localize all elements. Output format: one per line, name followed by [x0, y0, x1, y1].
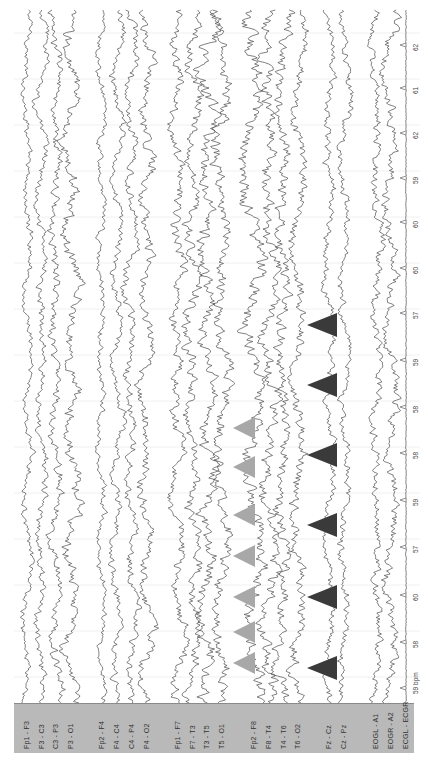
- r-peak-tick: [400, 451, 406, 455]
- heart-rate-value: 58: [412, 641, 419, 648]
- dark-triangle-marker-icon: [307, 513, 337, 537]
- channel-label: Fp1 - F7: [174, 721, 181, 749]
- channel-label: F7 - T3: [189, 725, 196, 749]
- r-peak-tick: [400, 405, 406, 409]
- dark-triangle-marker-icon: [307, 585, 337, 609]
- eeg-trace-c4-p4: [120, 10, 141, 703]
- gray-triangle-marker-icon: [233, 621, 255, 643]
- r-peak-tick: [400, 176, 406, 180]
- heart-rate-value: 59: [412, 499, 419, 506]
- channel-label: T4 - T6: [280, 725, 287, 749]
- r-peak-tick: [400, 686, 406, 690]
- heart-rate-value: 59: [412, 359, 419, 366]
- r-peak-tick: [400, 220, 406, 224]
- channel-label: EOGL - A1: [372, 714, 379, 749]
- eeg-trace-f3-c3: [32, 10, 50, 703]
- gray-triangle-marker-icon: [233, 545, 255, 567]
- eeg-trace-t4-t6: [271, 10, 295, 703]
- channel-label: C3 - P3: [52, 724, 59, 749]
- heart-rate-value: 60: [412, 267, 419, 274]
- channel-label: Cz - Pz: [340, 725, 347, 749]
- eeg-trace-f4-c4: [109, 10, 127, 703]
- r-peak-tick: [400, 266, 406, 270]
- heart-rate-value: 59 bpm: [412, 672, 419, 694]
- eeg-trace-f8-t4: [256, 10, 283, 703]
- eeg-trace-cz-pz: [337, 10, 353, 703]
- eeg-trace-t5-o1: [210, 10, 235, 703]
- eeg-traces: [21, 10, 407, 703]
- r-peak-tick: [400, 131, 406, 135]
- r-peak-tick: [400, 593, 406, 597]
- dark-triangle-marker-icon: [307, 656, 337, 680]
- eeg-trace-eogl-a1: [368, 10, 386, 703]
- dark-triangle-marker-icon: [307, 313, 337, 337]
- gridlines: [14, 33, 420, 677]
- eeg-trace-t6-o2: [286, 10, 308, 703]
- heart-rate-value: 62: [412, 132, 419, 139]
- r-peak-tick: [400, 43, 406, 47]
- heart-rate-value: 60: [412, 594, 419, 601]
- heart-rate-value: 61: [412, 87, 419, 94]
- r-peak-tick: [400, 358, 406, 362]
- channel-label: P4 - O2: [143, 723, 150, 749]
- eeg-trace-fp2-f4: [96, 10, 108, 703]
- r-peak-tick: [400, 640, 406, 644]
- heart-rate-value: 57: [412, 312, 419, 319]
- gray-triangle-marker-icon: [233, 652, 255, 674]
- gray-triangle-marker-icon: [233, 586, 255, 608]
- r-peak-tick: [400, 545, 406, 549]
- r-peak-tick: [400, 498, 406, 502]
- channel-label: T5 - O1: [218, 724, 225, 749]
- eeg-waveform-chart: [0, 0, 428, 771]
- channel-label: EOGR - A2: [387, 712, 394, 749]
- r-peak-tick: [400, 311, 406, 315]
- eeg-trace-c3-p3: [46, 10, 66, 703]
- eeg-trace-fp1-f7: [167, 10, 190, 703]
- eeg-trace-f7-t3: [182, 10, 205, 703]
- channel-label-panel: Fp1 - F3F3 - C3C3 - P3P3 - O1Fp2 - F4F4 …: [14, 703, 414, 753]
- event-markers: [233, 313, 337, 680]
- channel-label: F4 - C4: [113, 724, 120, 749]
- channel-label: Fp2 - F4: [98, 721, 105, 749]
- channel-label: C4 - P4: [128, 724, 135, 749]
- dark-triangle-marker-icon: [307, 373, 337, 397]
- heart-rate-axis: [400, 43, 406, 690]
- eeg-trace-p3-o1: [57, 10, 85, 703]
- heart-rate-value: 58: [412, 452, 419, 459]
- heart-rate-value: 62: [412, 44, 419, 51]
- channel-label: T3 - T5: [203, 725, 210, 749]
- eeg-trace-ecgl-ecgr: [406, 10, 407, 703]
- channel-label: ECGL - ECGR: [402, 702, 409, 749]
- channel-label: P3 - O1: [67, 723, 74, 749]
- channel-label: Fp1 - F3: [23, 721, 30, 749]
- heart-rate-value: 60: [412, 221, 419, 228]
- heart-rate-value: 57: [412, 546, 419, 553]
- channel-label: T6 - O2: [294, 724, 301, 749]
- eeg-trace-t3-t5: [193, 10, 221, 703]
- channel-label: Fz - Cz: [325, 725, 332, 749]
- channel-label: F8 - T4: [265, 725, 272, 749]
- channel-label: Fp2 - F8: [250, 721, 257, 749]
- eeg-trace-fp1-f3: [21, 10, 36, 703]
- heart-rate-value: 59: [412, 177, 419, 184]
- channel-label: F3 - C3: [38, 724, 45, 749]
- r-peak-tick: [400, 86, 406, 90]
- heart-rate-value: 58: [412, 406, 419, 413]
- gray-triangle-marker-icon: [233, 417, 255, 439]
- gray-triangle-marker-icon: [233, 504, 255, 526]
